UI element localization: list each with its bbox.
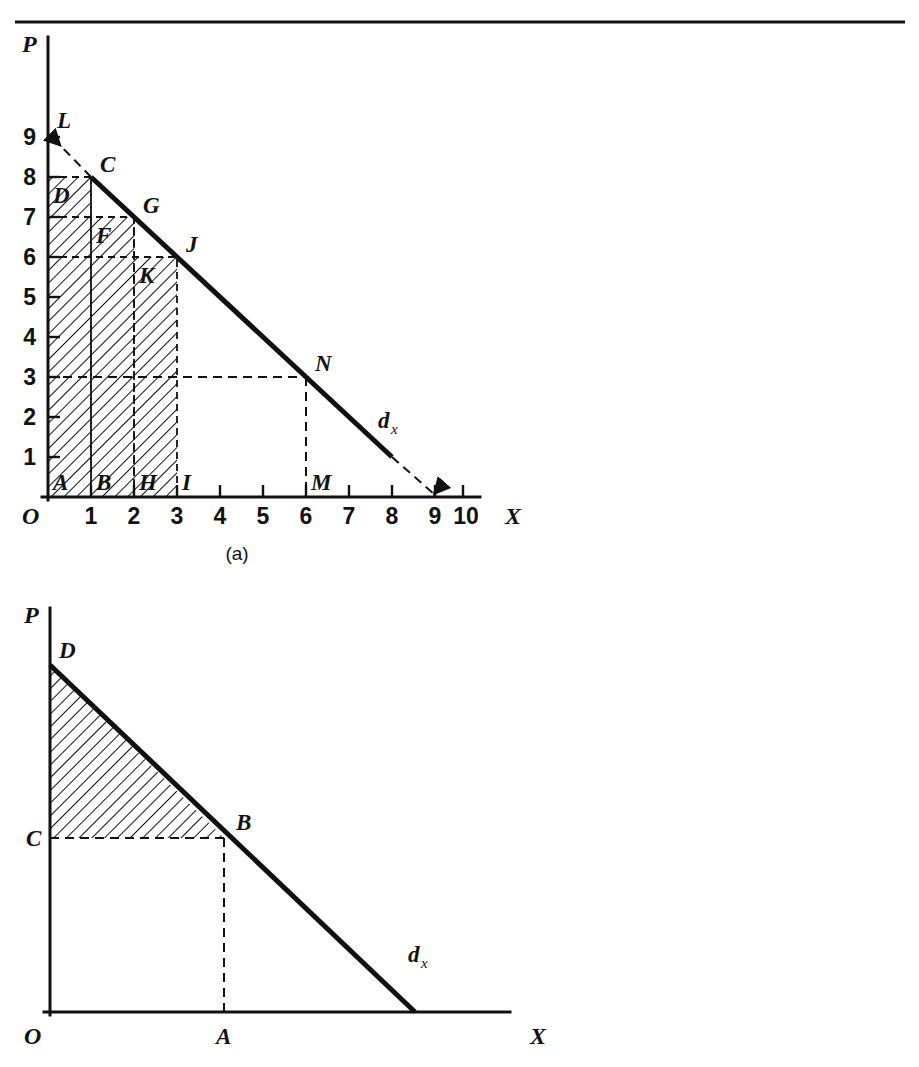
y-tick-label-5: 5 bbox=[23, 284, 36, 310]
y-tick-label-7: 7 bbox=[23, 204, 36, 230]
point-label-C: C bbox=[100, 152, 116, 177]
x-tick-label-8: 8 bbox=[386, 503, 399, 529]
demand-extension-upper bbox=[52, 137, 91, 177]
point-label-K: K bbox=[138, 263, 156, 288]
origin-label-b: O bbox=[24, 1023, 41, 1049]
point-label-M: M bbox=[310, 470, 333, 495]
point-label-b-C: C bbox=[26, 826, 42, 851]
point-label-D: D bbox=[52, 183, 70, 208]
panel-a: 1 2 3 4 5 6 7 8 9 1 2 3 4 5 6 7 8 9 10 P… bbox=[21, 31, 522, 564]
y-axis-label-a: P bbox=[21, 31, 37, 57]
x-tick-label-3: 3 bbox=[171, 503, 184, 529]
origin-label-a: O bbox=[22, 503, 39, 529]
demand-extension-lower bbox=[392, 457, 434, 494]
point-label-F: F bbox=[95, 223, 111, 248]
figure-canvas: 1 2 3 4 5 6 7 8 9 1 2 3 4 5 6 7 8 9 10 P… bbox=[0, 0, 919, 1067]
figure-root: 1 2 3 4 5 6 7 8 9 1 2 3 4 5 6 7 8 9 10 P… bbox=[0, 0, 919, 1067]
demand-curve-label-a: d x bbox=[378, 408, 398, 437]
x-tick-label-2: 2 bbox=[128, 503, 141, 529]
demand-label-main-a: d bbox=[378, 408, 390, 433]
point-label-L: L bbox=[56, 108, 71, 133]
y-tick-label-3: 3 bbox=[23, 364, 36, 390]
x-tick-label-1: 1 bbox=[85, 503, 98, 529]
x-axis-label-b: X bbox=[529, 1023, 547, 1049]
x-axis-label-a: X bbox=[504, 503, 522, 529]
point-label-H: H bbox=[138, 470, 158, 495]
point-label-N: N bbox=[314, 351, 333, 376]
panel-b: P X O D C B A d x bbox=[23, 602, 547, 1049]
y-tick-label-2: 2 bbox=[23, 404, 36, 430]
y-tick-label-1: 1 bbox=[23, 444, 36, 470]
panel-caption-a: (a) bbox=[225, 543, 248, 564]
point-label-B: B bbox=[95, 470, 111, 495]
step-bar-group bbox=[48, 177, 177, 497]
x-tick-label-6: 6 bbox=[300, 503, 313, 529]
x-tick-label-5: 5 bbox=[257, 503, 270, 529]
demand-curve-b bbox=[50, 665, 415, 1012]
y-tick-label-6: 6 bbox=[23, 244, 36, 270]
x-tick-label-4: 4 bbox=[214, 503, 227, 529]
y-tick-label-4: 4 bbox=[23, 324, 36, 350]
y-axis-label-b: P bbox=[23, 602, 39, 628]
point-label-b-A: A bbox=[214, 1024, 231, 1049]
point-label-J: J bbox=[185, 232, 199, 257]
step-bar-2 bbox=[91, 217, 134, 497]
point-label-b-B: B bbox=[235, 810, 251, 835]
point-label-I: I bbox=[181, 470, 192, 495]
y-tick-label-9: 9 bbox=[23, 124, 36, 150]
x-tick-label-7: 7 bbox=[343, 503, 356, 529]
point-label-A: A bbox=[51, 470, 68, 495]
demand-curve-label-b: d x bbox=[408, 942, 428, 971]
point-label-b-D: D bbox=[58, 638, 76, 663]
x-tick-label-10: 10 bbox=[453, 503, 479, 529]
demand-label-sub-b: x bbox=[420, 955, 428, 971]
x-tick-label-9: 9 bbox=[429, 503, 442, 529]
point-label-G: G bbox=[143, 193, 160, 218]
demand-label-sub-a: x bbox=[390, 421, 398, 437]
y-tick-label-8: 8 bbox=[23, 164, 36, 190]
demand-label-main-b: d bbox=[408, 942, 420, 967]
